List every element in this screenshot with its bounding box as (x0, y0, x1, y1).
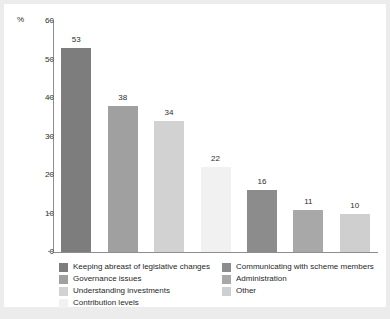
y-axis-tick-label: 30 (30, 133, 54, 141)
y-axis-tick: 50 (4, 56, 54, 64)
legend-item: Other (222, 286, 387, 297)
legend-item-label: Governance issues (73, 274, 141, 284)
legend-column-left: Keeping abreast of legislative changesGo… (59, 262, 219, 310)
bar-value-label: 38 (108, 94, 138, 102)
y-axis-tick: 10 (4, 210, 54, 218)
bar (247, 190, 277, 252)
y-axis-tick: 60 (4, 17, 54, 25)
bar-value-label: 16 (247, 178, 277, 186)
legend-item: Contribution levels (59, 298, 219, 309)
bar-value-label: 10 (340, 202, 370, 210)
legend-swatch-icon (59, 275, 68, 284)
y-axis-tick-label: 50 (30, 56, 54, 64)
legend-item-label: Contribution levels (73, 298, 139, 308)
bar (340, 214, 370, 253)
bar (61, 48, 91, 252)
bar (154, 121, 184, 252)
y-axis-tick-label: 60 (30, 17, 54, 25)
plot-area: % 6050403020100 53383422161110 (4, 4, 386, 260)
bar (108, 106, 138, 252)
y-axis-tick-label: 10 (30, 210, 54, 218)
y-axis-tick: 20 (4, 171, 54, 179)
y-axis-tick-label: 20 (30, 171, 54, 179)
legend-swatch-icon (222, 263, 231, 272)
bar (201, 167, 231, 252)
legend-item: Understanding investments (59, 286, 219, 297)
y-axis-tick: 0 (4, 248, 54, 256)
legend-item: Administration (222, 274, 387, 285)
bar-value-label: 34 (154, 109, 184, 117)
legend-swatch-icon (222, 275, 231, 284)
x-axis-line (53, 252, 378, 253)
y-axis-tick-label: 0 (30, 248, 54, 256)
legend-swatch-icon (59, 299, 68, 308)
legend-swatch-icon (59, 263, 68, 272)
bars-layer: 53383422161110 (53, 21, 378, 252)
y-axis-tick: 40 (4, 94, 54, 102)
legend-column-right: Communicating with scheme membersAdminis… (222, 262, 387, 298)
bar-value-label: 11 (293, 198, 323, 206)
legend-item-label: Keeping abreast of legislative changes (73, 262, 210, 272)
chart-legend: Keeping abreast of legislative changesGo… (4, 260, 386, 307)
chart-figure: % 6050403020100 53383422161110 Keeping a… (4, 4, 386, 307)
legend-item-label: Other (236, 286, 256, 296)
legend-swatch-icon (59, 287, 68, 296)
y-axis-tick-label: 40 (30, 94, 54, 102)
legend-item-label: Administration (236, 274, 287, 284)
legend-swatch-icon (222, 287, 231, 296)
bar-value-label: 22 (201, 155, 231, 163)
bar (293, 210, 323, 252)
y-axis-tick: 30 (4, 133, 54, 141)
legend-item: Communicating with scheme members (222, 262, 387, 273)
bar-value-label: 53 (61, 36, 91, 44)
legend-item-label: Communicating with scheme members (236, 262, 374, 272)
legend-item-label: Understanding investments (73, 286, 170, 296)
legend-item: Governance issues (59, 274, 219, 285)
legend-item: Keeping abreast of legislative changes (59, 262, 219, 273)
